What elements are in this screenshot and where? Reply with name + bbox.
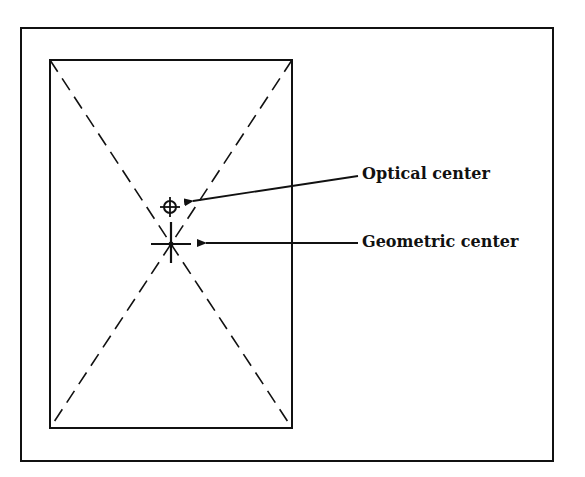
optical-center-label: Optical center: [362, 166, 490, 182]
geometric-center-marker-icon: [151, 222, 191, 263]
optical-center-arrow: [193, 176, 358, 201]
geometric-center-label: Geometric center: [362, 234, 518, 250]
optical-center-marker-icon: [160, 197, 180, 217]
